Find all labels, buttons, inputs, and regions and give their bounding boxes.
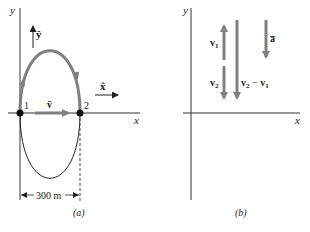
unit-x-label: x̂	[100, 80, 106, 92]
point-2	[77, 110, 84, 117]
caption-a: (a)	[73, 207, 85, 219]
point-1-label: 1	[24, 100, 29, 111]
panel-a: y x ŷ x̂ v̄ 1 2 300 m (a)	[8, 4, 140, 219]
x-axis-label-a: x	[133, 114, 139, 126]
point-2-label: 2	[84, 100, 89, 111]
lower-trajectory	[20, 113, 80, 178]
x-axis-label-b: x	[294, 114, 300, 126]
y-axis-label-a: y	[9, 4, 15, 16]
y-axis-label-b: y	[182, 4, 188, 16]
point-1	[17, 110, 24, 117]
velocity-difference-label: v2 − v1	[241, 77, 269, 90]
caption-b: (b)	[235, 207, 247, 219]
distance-label: 300 m	[36, 190, 62, 201]
v2-label: v2	[210, 77, 219, 90]
v1-label: v1	[210, 37, 219, 50]
unit-y-label: ŷ	[36, 28, 42, 40]
acceleration-label: a̅	[270, 33, 276, 44]
figure-canvas: y x ŷ x̂ v̄ 1 2 300 m (a) y	[0, 0, 310, 232]
avg-velocity-label: v̄	[47, 99, 52, 110]
panel-b: y x v1 v2 v2 − v1 a̅ (b)	[182, 4, 300, 219]
